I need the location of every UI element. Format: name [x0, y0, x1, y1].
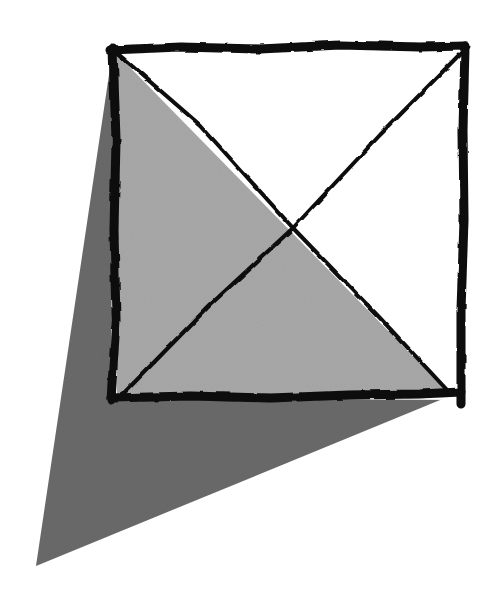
square-top-edge	[110, 45, 466, 50]
diagram-canvas	[0, 0, 498, 600]
square-diagonals-diagram	[0, 0, 498, 600]
square-right-edge	[461, 46, 465, 404]
square-left-edge	[111, 48, 116, 400]
square-bottom-edge	[111, 392, 461, 398]
